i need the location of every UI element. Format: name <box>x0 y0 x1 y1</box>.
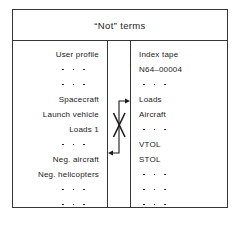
list-item: Loads <box>131 92 227 107</box>
list-item-ellipsis <box>131 182 227 197</box>
list-item: Aircraft <box>131 107 227 122</box>
page-title: “Not” terms <box>94 20 145 31</box>
index-tape-column: Index tape N64–00004 Loads Aircraft VTOL… <box>131 41 227 207</box>
list-item-label: N64–00004 <box>139 65 182 74</box>
ellipsis-dots <box>62 144 85 146</box>
ellipsis-dots <box>62 69 85 71</box>
arrowhead-left-icon <box>108 151 113 156</box>
list-item-ellipsis <box>13 77 107 92</box>
ellipsis-dots <box>62 84 85 86</box>
ellipsis-dots <box>62 204 85 206</box>
list-item: VTOL <box>131 137 227 152</box>
list-item: Index tape <box>131 47 227 62</box>
ellipsis-dots <box>143 174 166 176</box>
list-item-ellipsis <box>13 197 107 212</box>
ellipsis-dots <box>143 129 166 131</box>
ellipsis-dots <box>143 84 166 86</box>
list-item: Launch vehicle <box>13 107 107 122</box>
ellipsis-dots <box>143 189 166 191</box>
list-item-label: Spacecraft <box>59 95 99 104</box>
list-item-ellipsis <box>13 182 107 197</box>
ellipsis-dots <box>62 189 85 191</box>
list-item-ellipsis <box>131 167 227 182</box>
list-item-ellipsis <box>131 197 227 212</box>
list-item-label: Neg. aircraft <box>53 155 99 164</box>
list-item-ellipsis <box>13 137 107 152</box>
list-item: Loads 1 <box>13 122 107 137</box>
ellipsis-dots <box>143 204 166 206</box>
user-profile-column: User profile Spacecraft Launch vehicle L… <box>13 41 107 207</box>
list-item: User profile <box>13 47 107 62</box>
list-item: Neg. aircraft <box>13 152 107 167</box>
list-item-label: Neg. helicopters <box>38 170 99 179</box>
list-item-label: Loads 1 <box>69 125 99 134</box>
column-divider-left <box>107 41 108 207</box>
list-item: Spacecraft <box>13 92 107 107</box>
list-item-label: STOL <box>139 155 161 164</box>
list-item: STOL <box>131 152 227 167</box>
list-item-label: Aircraft <box>139 110 166 119</box>
list-item: N64–00004 <box>131 62 227 77</box>
list-item: Neg. helicopters <box>13 167 107 182</box>
figure-frame: “Not” terms User profile Spacecraft Laun… <box>12 9 228 208</box>
list-item-label: Launch vehicle <box>43 110 99 119</box>
list-item-label: VTOL <box>139 140 161 149</box>
figure-body: User profile Spacecraft Launch vehicle L… <box>13 41 227 207</box>
crossed-arrows-connector <box>108 41 130 207</box>
list-item-label: Loads <box>139 95 162 104</box>
list-item-label: User profile <box>56 50 99 59</box>
list-item-label: Index tape <box>139 50 178 59</box>
list-item-ellipsis <box>131 77 227 92</box>
list-item-ellipsis <box>131 122 227 137</box>
figure-title-band: “Not” terms <box>13 10 227 41</box>
list-item-ellipsis <box>13 62 107 77</box>
crossed-arrows-icon <box>108 41 130 209</box>
